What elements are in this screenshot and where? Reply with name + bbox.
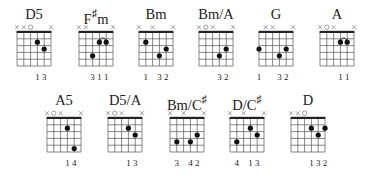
muted-string-icon xyxy=(79,111,83,115)
finger-number: 2 xyxy=(193,158,201,168)
fingering: 413 xyxy=(230,158,264,168)
muted-string-icon xyxy=(291,25,295,29)
muted-string-icon xyxy=(49,25,53,29)
nut xyxy=(79,31,114,33)
chord-title: A5 xyxy=(39,92,89,108)
nut xyxy=(259,31,294,33)
chord-title: A xyxy=(312,6,362,22)
fingering: 14 xyxy=(47,158,81,168)
nut xyxy=(17,31,52,33)
finger-number: 2 xyxy=(321,158,329,168)
nut xyxy=(320,31,355,33)
open-string-icon xyxy=(28,25,32,29)
finger-dot xyxy=(72,146,77,151)
muted-string-icon xyxy=(45,111,49,115)
finger-dot xyxy=(126,126,131,131)
muted-string-icon xyxy=(318,25,322,29)
chord-title: Bm/C♯ xyxy=(162,92,212,113)
finger-dot xyxy=(234,139,239,144)
muted-string-icon xyxy=(120,111,124,115)
fingering: 13 xyxy=(108,158,142,168)
finger-number: 3 xyxy=(40,72,48,82)
chord-title: D5/A xyxy=(100,92,150,108)
chord-title: D/C♯ xyxy=(222,92,272,113)
finger-dot xyxy=(256,46,261,51)
finger-dot xyxy=(157,53,162,58)
nut xyxy=(199,31,234,33)
open-string-icon xyxy=(113,111,117,115)
chord-grid xyxy=(139,32,173,66)
finger-number: 1 xyxy=(102,72,110,82)
chord-a: A 11 xyxy=(312,6,362,76)
chord-title: Bm/A xyxy=(191,6,241,22)
finger-dot xyxy=(309,126,314,131)
finger-number: 1 xyxy=(343,72,351,82)
chord-title: G xyxy=(251,6,301,22)
muted-string-icon xyxy=(231,25,235,29)
fingering: 11 xyxy=(320,72,354,82)
fingering: 132 xyxy=(139,72,173,82)
muted-string-icon xyxy=(264,25,268,29)
muted-string-icon xyxy=(15,25,19,29)
muted-string-icon xyxy=(59,111,63,115)
chord-g: G 132 xyxy=(251,6,301,76)
finger-dot xyxy=(255,132,260,137)
chord-d5: D5 13 xyxy=(9,6,59,76)
chord-d5-a: D5/A 13 xyxy=(100,92,150,162)
finger-number: 2 xyxy=(222,72,230,82)
finger-dot xyxy=(322,126,327,131)
muted-string-icon xyxy=(332,25,336,29)
muted-string-icon xyxy=(211,25,215,29)
finger-dot xyxy=(338,40,343,45)
chord-d: D 132 xyxy=(283,92,333,162)
nut xyxy=(230,117,265,119)
fingering: 32 xyxy=(199,72,233,82)
chord-grid xyxy=(230,118,264,152)
finger-number: 4 xyxy=(70,158,78,168)
finger-dot xyxy=(133,132,138,137)
finger-number: 2 xyxy=(162,72,170,82)
finger-dot xyxy=(90,53,95,58)
finger-dot xyxy=(65,126,70,131)
muted-string-icon xyxy=(197,25,201,29)
fingering: 132 xyxy=(291,158,325,168)
finger-dot xyxy=(104,40,109,45)
chord-grid xyxy=(17,32,51,66)
open-string-icon xyxy=(52,111,56,115)
nut xyxy=(291,117,326,119)
muted-string-icon xyxy=(289,111,293,115)
finger-dot xyxy=(174,139,179,144)
muted-string-icon xyxy=(296,111,300,115)
finger-dot xyxy=(97,40,102,45)
nut xyxy=(170,117,205,119)
finger-dot xyxy=(316,132,321,137)
chord-grid xyxy=(291,118,325,152)
finger-number: 1 xyxy=(255,72,263,82)
finger-dot xyxy=(277,53,282,58)
chord-grid xyxy=(199,32,233,66)
chord-bm: Bm 132 xyxy=(131,6,181,76)
muted-string-icon xyxy=(171,25,175,29)
finger-dot xyxy=(42,46,47,51)
chord-grid xyxy=(259,32,293,66)
finger-dot xyxy=(188,139,193,144)
chord-grid xyxy=(320,32,354,66)
chord-grid xyxy=(170,118,204,152)
chord-bm-a: Bm/A 32 xyxy=(191,6,241,76)
chord-title: F♯m xyxy=(71,6,121,27)
finger-dot xyxy=(224,46,229,51)
chord-a5: A5 14 xyxy=(39,92,89,162)
finger-dot xyxy=(284,46,289,51)
finger-dot xyxy=(248,126,253,131)
open-string-icon xyxy=(204,25,208,29)
chord-grid xyxy=(79,32,113,66)
muted-string-icon xyxy=(106,111,110,115)
chord-d-c-sharp: D/C♯ 413 xyxy=(222,92,272,162)
nut xyxy=(47,117,82,119)
finger-number: 3 xyxy=(131,158,139,168)
open-string-icon xyxy=(325,25,329,29)
finger-dot xyxy=(35,40,40,45)
finger-number: 3 xyxy=(173,158,181,168)
finger-dot xyxy=(195,132,200,137)
finger-number: 4 xyxy=(233,158,241,168)
